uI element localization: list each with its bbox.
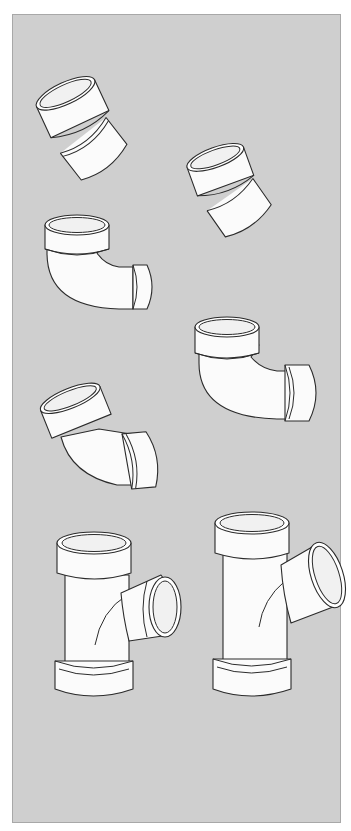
sanitary-tee-fitting — [43, 525, 193, 715]
wye-fitting — [201, 503, 351, 713]
illustration-panel — [12, 14, 341, 823]
elbow-45-fitting-lower-left — [31, 375, 171, 495]
elbow-90-fitting-middle-left — [29, 205, 169, 325]
bend-22-5-fitting-top-left — [31, 67, 141, 187]
elbow-90-fitting-middle-right — [181, 305, 331, 435]
bend-22-5-fitting-top-right — [181, 133, 281, 243]
